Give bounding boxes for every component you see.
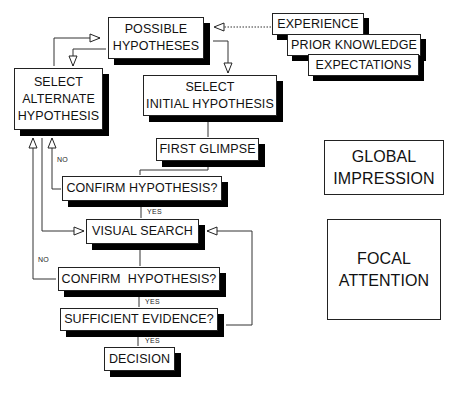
edge-label-no-1: NO (57, 156, 68, 163)
legend-label: IMPRESSION (333, 168, 434, 190)
node-confirm-hypothesis-2: CONFIRM HYPOTHESIS? (58, 267, 220, 291)
legend-focal-attention: FOCAL ATTENTION (327, 219, 441, 320)
legend-global-impression: GLOBAL IMPRESSION (324, 140, 444, 195)
node-visual-search: VISUAL SEARCH (86, 219, 199, 244)
node-label: CONFIRM HYPOTHESIS? (62, 271, 217, 288)
node-label: SELECT (34, 74, 83, 91)
node-label: FIRST GLIMPSE (159, 141, 255, 158)
node-label: HYPOTHESIS (18, 108, 100, 125)
node-select-initial-hypothesis: SELECT INITIAL HYPOTHESIS (143, 75, 277, 116)
node-experience: EXPERIENCE (272, 13, 364, 35)
edge-confirm1-to-alternate (52, 138, 61, 189)
edge-possible-to-alternate (73, 49, 106, 66)
node-label: POSSIBLE (125, 21, 188, 38)
node-label: HYPOTHESES (113, 38, 199, 55)
edge-possible-to-initial (213, 41, 228, 73)
node-label: ALTERNATE (22, 91, 95, 108)
node-possible-hypotheses: POSSIBLE HYPOTHESES (108, 17, 204, 59)
node-label: INITIAL HYPOTHESIS (146, 96, 274, 113)
node-label: EXPECTATIONS (316, 57, 412, 74)
node-label: PRIOR KNOWLEDGE (291, 37, 417, 54)
edge-label-yes-3: YES (145, 337, 160, 344)
node-confirm-hypothesis-1: CONFIRM HYPOTHESIS? (62, 176, 222, 201)
node-select-alternate-hypothesis: SELECT ALTERNATE HYPOTHESIS (14, 68, 103, 130)
edge-label-yes-1: YES (147, 208, 162, 215)
node-label: VISUAL SEARCH (92, 223, 193, 240)
node-label: DECISION (109, 351, 170, 368)
legend-label: FOCAL (357, 248, 411, 270)
node-label: CONFIRM HYPOTHESIS? (66, 180, 217, 197)
node-sufficient-evidence: SUFFICIENT EVIDENCE? (60, 308, 218, 331)
node-prior-knowledge: PRIOR KNOWLEDGE (287, 34, 421, 56)
legend-label: GLOBAL (352, 146, 417, 168)
edge-label-no-2: NO (38, 256, 49, 263)
node-label: SELECT (185, 79, 234, 96)
node-decision: DECISION (104, 347, 175, 371)
edge-alternate-to-possible (54, 38, 100, 66)
node-label: SUFFICIENT EVIDENCE? (64, 311, 214, 328)
node-expectations: EXPECTATIONS (308, 54, 419, 76)
edge-glimpse-to-confirm1 (140, 166, 208, 175)
node-first-glimpse: FIRST GLIMPSE (156, 138, 259, 161)
edge-label-yes-2: YES (145, 298, 160, 305)
node-label: EXPERIENCE (277, 16, 359, 33)
legend-label: ATTENTION (339, 270, 429, 292)
